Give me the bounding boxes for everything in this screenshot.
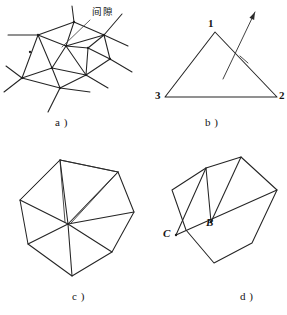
gap-annotation-label: 间隙 — [92, 7, 113, 17]
panel-d-caption: d ) — [240, 291, 253, 302]
panel-d-polygon-diagram — [150, 145, 287, 295]
triangle-vertex-label-3: 3 — [155, 90, 161, 101]
panel-c-caption: c ) — [72, 291, 85, 302]
panel-b-caption: b ) — [205, 117, 218, 128]
panel-a-caption: a ) — [55, 117, 68, 128]
triangle-vertex-label-1: 1 — [208, 18, 214, 29]
triangle-vertex-label-2: 2 — [279, 90, 285, 101]
panel-b-triangle-diagram — [150, 0, 287, 120]
panel-c-fan-triangulation-diagram — [0, 145, 150, 295]
polygon-vertex-label-c: C — [163, 228, 170, 239]
polygon-vertex-label-b: B — [206, 217, 213, 228]
figure-root: 间隙 a ) 1 2 3 b ) c ) C B d ) — [0, 0, 287, 315]
panel-a-mesh-diagram — [0, 0, 140, 120]
